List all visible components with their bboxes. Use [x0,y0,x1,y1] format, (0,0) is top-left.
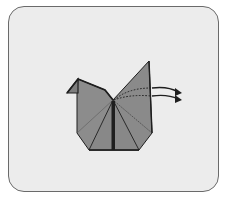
arrow-upper [152,88,178,93]
origami-diagram [0,0,226,201]
arrow-lower [152,95,178,99]
origami-bird [67,61,152,150]
arrowhead-lower-icon [175,95,182,103]
arrowhead-upper-icon [175,88,182,96]
fold-arrows [152,88,182,104]
center-stripe [112,101,116,150]
